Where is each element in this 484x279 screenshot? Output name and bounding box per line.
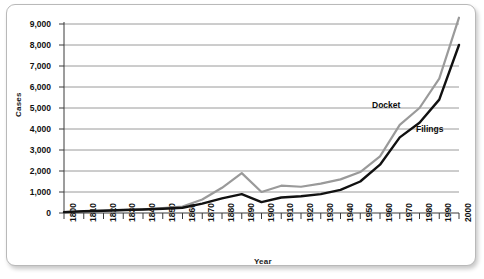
gridline-group <box>59 24 459 213</box>
chart-frame: Cases Year 01,0002,0003,0004,0005,0006,0… <box>6 4 476 266</box>
series-label-filings: Filings <box>416 124 443 134</box>
series-path-group <box>64 18 459 212</box>
series-label-docket: Docket <box>372 100 400 110</box>
line-chart-plot <box>7 5 477 267</box>
x-tick-mark-group <box>64 213 459 219</box>
series-line-docket <box>64 18 459 212</box>
